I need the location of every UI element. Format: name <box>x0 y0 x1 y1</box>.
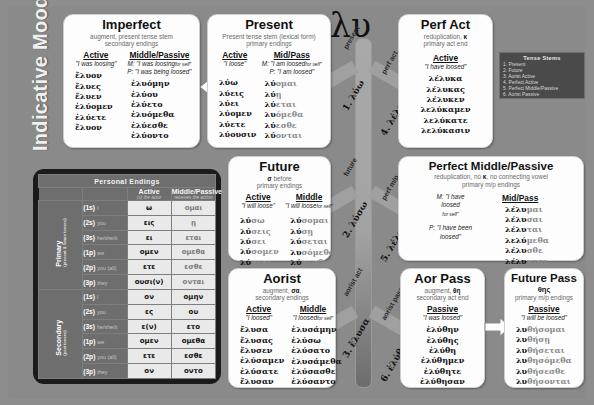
card-futpass-subtitle: θης primary m/p endings <box>509 285 579 302</box>
perfmp-gloss-passive: P: "I have been loosed" <box>403 224 498 241</box>
stem: λέλυ <box>505 256 527 266</box>
person-pronoun: you (all) <box>97 354 116 360</box>
future-active-gloss: "I will loose" <box>233 202 283 210</box>
ending-active: ει <box>127 230 171 245</box>
stem: λέλυ <box>505 214 527 224</box>
table-header-row: Personal Endings <box>39 175 216 188</box>
person-code: (1p) <box>83 249 95 256</box>
ending: ομαι <box>276 78 297 88</box>
present-active-col: Active "I loose" λύω λύεις λύει λύομεν λ… <box>212 50 258 140</box>
present-mp-header: Mid/Pass <box>258 50 326 60</box>
gloss-passive: P: "I was being loosed" <box>127 68 191 75</box>
perfmp-sub1-pre: reduplication, no <box>434 173 483 180</box>
gloss-passive: P: "I am loosed" <box>269 68 314 75</box>
person-pronoun: they <box>97 369 107 375</box>
form: λυσόμεθα <box>290 247 335 257</box>
person-code: (1s) <box>83 293 95 300</box>
aorpass-gloss: "I was loosed" <box>405 314 480 322</box>
legend-tense-stems: Tense Stems 1. Present 2. Future 3. Aori… <box>499 52 585 99</box>
ending-active: ε(ν) <box>127 319 171 334</box>
card-perfmp-title: Perfect Middle/Passive <box>403 160 579 172</box>
row-group-secondary: Secondary (past tenses) <box>39 289 83 378</box>
gloss-middle: M: "I am loosed <box>262 60 306 67</box>
person-label: (3s) he/she/it <box>83 319 127 334</box>
aorpass-sub1-pre: augment, <box>425 287 453 294</box>
ending-active: ομεν <box>127 334 171 349</box>
group-sub-secondary: (past tenses) <box>62 312 67 355</box>
person-pronoun: you <box>97 309 106 315</box>
perfact-sub1-pre: reduplication, <box>424 33 464 40</box>
stem: λύ <box>265 120 276 130</box>
futpass-sub2: primary m/p endings <box>515 294 573 301</box>
present-mp-gloss: M: "I am loosedfor self" P: "I am loosed… <box>258 60 326 76</box>
form: ἐλύσατε <box>240 366 284 376</box>
table-row: Secondary (past tenses) (1s) I ον ομην <box>39 289 216 304</box>
form: ἐλύθη <box>405 345 480 355</box>
ending: ται <box>527 224 542 234</box>
stem: λύ <box>240 215 251 225</box>
stem: λυ <box>516 355 527 365</box>
ending-mp: ετο <box>171 319 215 334</box>
table-row: Primary (present & future tenses) (1s) I… <box>39 201 216 216</box>
person-pronoun: we <box>97 250 104 256</box>
ending: σει <box>251 236 266 246</box>
person-code: (2p) <box>83 353 95 360</box>
perfmp-header: Mid/Pass <box>498 193 579 203</box>
stem: λέλυ <box>505 245 527 255</box>
ending: θησόμεθα <box>527 355 572 365</box>
ending-active: ετε <box>127 349 171 364</box>
form: λυθήσομαι <box>516 324 579 334</box>
stem: λύ <box>240 236 251 246</box>
card-aorpass-title: Aor Pass <box>405 272 480 286</box>
col-header-active-label: Active <box>139 188 160 195</box>
person-code: (2s) <box>83 219 95 226</box>
stem: λύ <box>265 89 276 99</box>
present-mp-col: Mid/Pass M: "I am loosedfor self" P: "I … <box>258 50 326 140</box>
stem: λέλυ <box>505 224 527 234</box>
legend-item: 6. Aorist Passive <box>503 92 581 98</box>
ending-active: ετε <box>127 260 171 275</box>
aorist-active-header: Active <box>233 304 284 314</box>
future-sub1-rest: before <box>272 175 292 182</box>
person-code: (1s) <box>83 204 95 211</box>
gloss-middle-tiny: for self" <box>175 62 191 67</box>
futpass-header: Passive <box>509 304 579 314</box>
form: λύσομαι <box>290 215 335 225</box>
form: λέλυκα <box>403 73 488 83</box>
ending: θήσεσθε <box>527 366 565 376</box>
form: ἐλύθημεν <box>405 355 480 365</box>
ending-mp: εται <box>171 230 215 245</box>
person-code: (3s) <box>83 323 95 330</box>
card-imperfect-subtitle: augment, present tense stem secondary en… <box>68 33 195 49</box>
card-future: Future σ before primary endings Active "… <box>228 156 331 261</box>
person-pronoun: you <box>97 220 106 226</box>
form: λέλυμαι <box>505 204 579 214</box>
stem: λυ <box>516 334 527 344</box>
ending: όμεθα <box>276 109 304 119</box>
col-header-active: Active (s) the actor <box>127 188 171 201</box>
stem: λυ <box>516 366 527 376</box>
form: λύσω <box>240 215 283 225</box>
card-perfmp-subtitle: reduplication, no κ, no connecting vowel… <box>403 173 579 189</box>
present-sub2: primary endings <box>246 40 291 47</box>
form: ἐλύοντο <box>131 130 195 140</box>
form: λύεις <box>219 88 258 98</box>
form: λύσετε <box>240 257 283 267</box>
form: ἐλυόμεθα <box>131 109 195 119</box>
form: ἔλυεν <box>75 91 124 101</box>
ending-active: ον <box>127 364 171 379</box>
present-active-gloss: "I loose" <box>212 60 258 68</box>
chart-root: Indicative Mood λυ present 1. λύω future… <box>0 0 594 405</box>
card-aorist: Aorist augment, σα, secondary endings Ac… <box>228 268 336 388</box>
card-aorpass-subtitle: augment, θη secondary act end <box>405 287 480 303</box>
ending: σαι <box>527 214 543 224</box>
gloss-tiny: for self" <box>317 204 333 209</box>
ending-active: εις <box>127 215 171 230</box>
form: λύονται <box>265 130 326 140</box>
form: λέλυκεν <box>403 94 488 104</box>
person-label: (3s) he/she/it <box>83 230 127 245</box>
form: ἐλύσασθε <box>291 366 341 376</box>
ending-mp: ομεθα <box>171 245 215 260</box>
gloss-tiny: for self" <box>317 316 333 321</box>
card-aorist-title: Aorist <box>233 272 331 286</box>
